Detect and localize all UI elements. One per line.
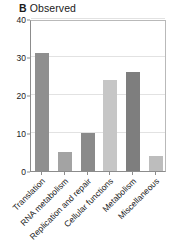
bar [58, 152, 72, 171]
x-axis-tick-mark [64, 172, 65, 175]
bar [149, 156, 163, 171]
y-axis: 010203040 [0, 20, 30, 172]
plot-area [30, 20, 166, 172]
gridline [31, 18, 165, 19]
y-axis-tick-label: 20 [17, 91, 26, 101]
y-axis-tick-label: 10 [17, 129, 26, 139]
x-axis-tick-mark [155, 172, 156, 175]
x-axis-tick-mark [132, 172, 133, 175]
chart-title-text: Observed [30, 2, 76, 14]
chart-title: BObserved [19, 2, 76, 14]
bar [35, 53, 49, 171]
y-axis-tick-label: 30 [17, 53, 26, 63]
x-axis-tick-mark [41, 172, 42, 175]
x-axis: TranslationRNA metabolismReplication and… [0, 172, 174, 248]
bars-layer [31, 21, 165, 171]
bar [81, 133, 95, 171]
x-axis-tick-mark [109, 172, 110, 175]
panel-letter: B [19, 2, 27, 14]
bar [103, 80, 117, 171]
bar [126, 72, 140, 171]
x-axis-tick-mark [87, 172, 88, 175]
chart-panel: BObserved 010203040 TranslationRNA metab… [0, 0, 174, 248]
y-axis-tick-label: 40 [17, 15, 26, 25]
